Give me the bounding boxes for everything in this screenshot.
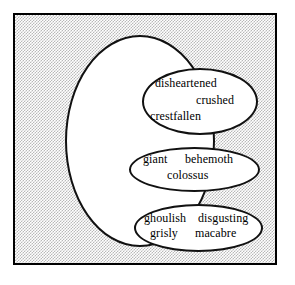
word-grisly: grisly	[150, 227, 178, 240]
word-giant: giant	[143, 153, 168, 166]
word-ghoulish: ghoulish	[144, 212, 186, 225]
outer-set-ellipse: disheartened crushed crestfallen giant b…	[65, 35, 215, 247]
word-crestfallen: crestfallen	[150, 110, 201, 123]
diagram-frame: disheartened crushed crestfallen giant b…	[13, 13, 277, 265]
word-behemoth: behemoth	[185, 153, 233, 166]
word-disheartened: disheartened	[155, 77, 217, 90]
word-crushed: crushed	[196, 94, 234, 107]
word-colossus: colossus	[167, 169, 208, 182]
word-disgusting: disgusting	[198, 212, 248, 225]
word-macabre: macabre	[195, 227, 236, 240]
diagram-root: disheartened crushed crestfallen giant b…	[0, 0, 295, 285]
